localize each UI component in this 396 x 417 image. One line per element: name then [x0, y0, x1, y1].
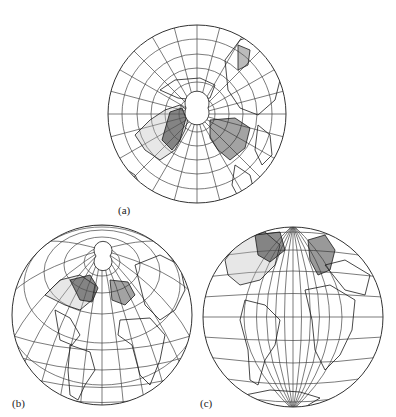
panel-label-c: (c)	[200, 397, 212, 409]
globe-c	[200, 225, 386, 410]
panel-label-b: (b)	[12, 397, 25, 409]
globe-a	[103, 20, 291, 208]
globe-b	[4, 225, 200, 410]
panel-label-a: (a)	[118, 204, 130, 216]
figure-canvas	[0, 0, 396, 417]
